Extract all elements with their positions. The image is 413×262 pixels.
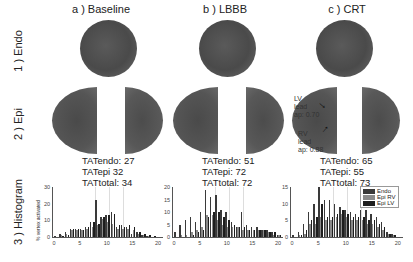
x-tick-label: 10	[224, 240, 230, 246]
histogram-bar	[239, 227, 240, 237]
histogram-bar	[149, 235, 150, 237]
y-tick-label: 5	[285, 217, 288, 223]
tat-epi-crt: TATepi: 55	[320, 166, 372, 177]
x-tick-label: 0	[291, 240, 294, 246]
histogram-bar	[124, 227, 125, 237]
epi-map-lbbb-rv	[173, 87, 218, 154]
histogram-bar	[234, 225, 235, 238]
histogram-bar	[174, 232, 175, 237]
tat-endo-crt: TATendo: 65	[320, 155, 372, 166]
column-title-crt: c ) CRT	[292, 3, 402, 15]
y-tick-label: 20	[164, 184, 170, 190]
histogram-bar	[384, 227, 385, 237]
epi-map-baseline-rv	[52, 87, 97, 154]
histogram-bar	[358, 217, 359, 237]
y-tick-label: 15	[282, 184, 288, 190]
row-label-epi: 2 ) Epi	[12, 84, 24, 164]
histogram-bar	[114, 214, 115, 237]
histogram-bar	[218, 212, 219, 237]
histogram-bar	[368, 220, 369, 237]
lv-lead-annotation: LV lead ap: 0.70	[294, 95, 319, 119]
histogram-bar	[223, 217, 224, 237]
histogram-bar	[108, 215, 109, 237]
row-label-endo: 1 ) Endo	[12, 11, 24, 91]
x-tick-label: 0	[173, 240, 176, 246]
histogram-bar	[280, 235, 281, 238]
histogram-bar	[274, 232, 275, 237]
y-tick-label: 10	[282, 201, 288, 207]
y-tick-label: 20	[44, 201, 50, 207]
histogram-bar	[332, 217, 333, 237]
histogram-baseline: 010203005101520	[52, 187, 163, 238]
y-tick-label: 0	[167, 234, 170, 240]
x-tick-label: 20	[155, 240, 161, 246]
histogram-bar	[54, 236, 55, 237]
y-tick-label: 30	[44, 184, 50, 190]
histogram-bar	[327, 217, 328, 237]
tat-epi-baseline: TATepi 32	[82, 166, 134, 177]
histogram-bar	[98, 224, 99, 237]
tat-block-lbbb: TATendo: 51 TATepi: 72 TATtotal: 72	[202, 155, 254, 188]
histogram-bar	[347, 214, 348, 237]
histogram-bar	[134, 227, 135, 237]
histogram-bar	[254, 230, 255, 238]
histogram-bar	[228, 220, 229, 238]
tat-epi-lbbb: TATepi: 72	[202, 166, 254, 177]
x-tick-label: 15	[249, 240, 255, 246]
histogram-bar	[203, 230, 204, 238]
legend-item-epi-lv: Epi LV	[363, 200, 396, 206]
histogram-bar	[374, 220, 375, 237]
histogram-bar	[193, 235, 194, 238]
histogram-bar	[208, 217, 209, 237]
histogram-bar	[264, 230, 265, 238]
histogram-bar	[379, 224, 380, 237]
y-tick-label: 15	[164, 197, 170, 203]
histogram-bar	[394, 235, 395, 237]
histogram-bar	[119, 225, 120, 237]
y-tick-label: 5	[167, 222, 170, 228]
rv-lead-annotation: RV lead ap: 0.88	[298, 130, 323, 154]
epi-map-baseline-lv	[125, 87, 163, 154]
histogram-bar	[244, 227, 245, 237]
y-tick-label: 0	[285, 234, 288, 240]
histogram-bar	[78, 229, 79, 237]
histogram-bar	[83, 230, 84, 237]
legend-swatch-epi-lv	[363, 201, 375, 206]
epi-map-lbbb-lv	[246, 87, 284, 154]
histogram-bar	[306, 230, 307, 237]
histogram-bar	[73, 229, 74, 237]
histogram-bar	[353, 217, 354, 237]
histogram-bar	[103, 217, 104, 237]
histogram-lbbb: 0510152005101520	[172, 187, 283, 238]
histogram-bar	[292, 235, 293, 237]
histogram-bar	[93, 222, 94, 237]
histogram-bar	[249, 230, 250, 238]
histogram-bar	[321, 204, 322, 237]
x-tick-label: 5	[78, 240, 81, 246]
histogram-bar	[269, 232, 270, 237]
histogram-bar	[301, 235, 302, 237]
histogram-bar	[181, 235, 182, 238]
endo-map-crt	[316, 20, 373, 77]
x-tick-label: 5	[198, 240, 201, 246]
tat-block-baseline: TATendo: 27 TATepi 32 TATtotal: 34	[82, 155, 134, 188]
histogram-bar	[144, 234, 145, 237]
x-tick-label: 10	[343, 240, 349, 246]
histogram-bar	[186, 235, 187, 238]
tat-endo-lbbb: TATendo: 51	[202, 155, 254, 166]
epi-map-crt-lv	[362, 87, 400, 154]
x-tick-label: 20	[395, 240, 401, 246]
histogram-bar	[342, 210, 343, 237]
histogram-bar	[259, 230, 260, 238]
y-tick-label: 10	[164, 209, 170, 215]
histogram-bar	[154, 236, 155, 237]
histogram-y-axis-label: % vertex activated	[35, 181, 41, 241]
histogram-bar	[311, 220, 312, 237]
histogram-legend: Endo Epi RV Epi LV	[360, 186, 399, 208]
x-tick-label: 0	[53, 240, 56, 246]
endo-map-lbbb	[199, 20, 256, 77]
x-tick-label: 15	[129, 240, 135, 246]
histogram-bar	[363, 217, 364, 237]
column-title-baseline: a ) Baseline	[46, 3, 156, 15]
histogram-bar	[88, 227, 89, 237]
